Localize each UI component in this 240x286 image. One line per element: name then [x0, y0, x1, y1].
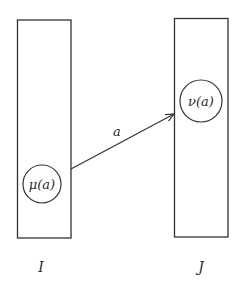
mapping-diagram: μ(a) I ν(a) J a: [0, 0, 240, 286]
set-J-label: J: [195, 259, 205, 275]
element-nu-a-label: ν(a): [188, 94, 214, 109]
element-mu-a-label: μ(a): [29, 177, 55, 192]
diagram-canvas: μ(a) I ν(a) J a: [0, 0, 240, 286]
arrow-a: a: [71, 114, 174, 169]
set-I-label: I: [37, 259, 44, 275]
set-I: μ(a) I: [18, 20, 72, 275]
arrow-a-label: a: [113, 124, 121, 139]
arrow-a-line: [71, 114, 174, 169]
set-I-box: [18, 20, 72, 238]
set-J: ν(a) J: [175, 19, 229, 276]
set-J-box: [175, 19, 229, 238]
